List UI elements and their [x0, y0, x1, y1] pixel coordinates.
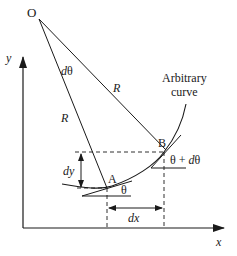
theta-label: θ	[121, 183, 127, 197]
dashed-guides	[75, 152, 164, 228]
point-b-label: B	[158, 136, 166, 150]
curvature-diagram: O dθ R R Arbitrary curve A B θ θ + dθ dy…	[0, 0, 237, 256]
radius-line-oa	[39, 19, 107, 188]
curve-label-line1: Arbitrary	[162, 71, 207, 85]
point-a-label: A	[108, 172, 117, 186]
radius-lower-label: R	[60, 111, 69, 125]
y-axis-label: y	[5, 51, 12, 65]
curve-label-line2: curve	[171, 85, 198, 99]
dtheta-label: dθ	[61, 64, 73, 78]
radius-upper-label: R	[112, 81, 121, 95]
diagram-svg: O dθ R R Arbitrary curve A B θ θ + dθ dy…	[0, 0, 237, 256]
dx-label: dx	[128, 211, 140, 225]
x-axis-label: x	[215, 235, 222, 249]
dy-label: dy	[63, 164, 75, 178]
origin-label: O	[27, 5, 36, 20]
theta-plus-dtheta-label: θ + dθ	[170, 153, 201, 167]
radius-line-ob	[39, 19, 166, 150]
